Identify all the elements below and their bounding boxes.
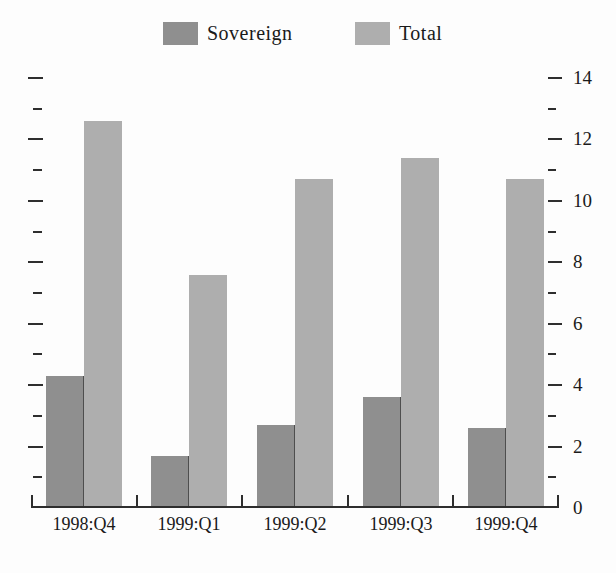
x-group-tick — [241, 495, 243, 506]
y-major-tick-left — [28, 77, 43, 79]
y-major-tick-left — [28, 323, 43, 325]
y-major-tick-right — [548, 200, 562, 202]
y-tick-label: 10 — [573, 190, 616, 212]
y-tick-label: 2 — [573, 436, 616, 458]
y-minor-tick-right — [548, 231, 556, 233]
y-tick-label: 14 — [573, 67, 616, 89]
y-minor-tick-left — [33, 231, 42, 233]
total-legend-label: Total — [399, 21, 442, 46]
bar-sovereign-1999-q3 — [363, 397, 401, 508]
y-minor-tick-left — [33, 353, 42, 355]
y-major-tick-left — [28, 138, 43, 140]
bar-sovereign-1998-q4 — [46, 376, 84, 508]
total-legend-swatch — [355, 22, 390, 45]
bar-total-1999-q1 — [189, 275, 227, 508]
bar-total-1999-q4 — [506, 179, 544, 508]
x-axis-right-cap — [557, 495, 559, 508]
y-minor-tick-left — [33, 415, 42, 417]
x-axis-label: 1998:Q4 — [29, 512, 139, 536]
x-axis-label: 1999:Q1 — [134, 512, 244, 536]
y-major-tick-right — [548, 138, 562, 140]
bar-sovereign-1999-q4 — [468, 428, 506, 508]
y-major-tick-left — [28, 384, 43, 386]
bar-total-1998-q4 — [84, 121, 122, 508]
y-minor-tick-left — [33, 292, 42, 294]
y-major-tick-left — [28, 200, 43, 202]
bar-total-1999-q3 — [401, 158, 439, 508]
plot-area: 02468101214 — [31, 68, 559, 508]
y-minor-tick-left — [33, 108, 42, 110]
x-group-tick — [452, 495, 454, 506]
bar-chart-figure: Sovereign Total 02468101214 1998:Q41999:… — [0, 0, 616, 573]
y-major-tick-left — [28, 446, 43, 448]
y-minor-tick-right — [548, 292, 556, 294]
y-major-tick-left — [28, 261, 43, 263]
y-tick-label: 6 — [573, 313, 616, 335]
y-tick-label: 12 — [573, 128, 616, 150]
y-tick-label: 4 — [573, 374, 616, 396]
sovereign-legend-swatch — [163, 22, 198, 45]
y-major-tick-right — [548, 77, 562, 79]
y-minor-tick-left — [33, 476, 42, 478]
x-group-tick — [347, 495, 349, 506]
y-major-tick-right — [548, 446, 562, 448]
x-axis-label: 1999:Q3 — [346, 512, 456, 536]
y-minor-tick-right — [548, 353, 556, 355]
x-axis-label: 1999:Q4 — [451, 512, 561, 536]
y-minor-tick-right — [548, 476, 556, 478]
y-minor-tick-right — [548, 108, 556, 110]
y-major-tick-right — [548, 323, 562, 325]
x-axis-label: 1999:Q2 — [240, 512, 350, 536]
y-tick-label: 8 — [573, 251, 616, 273]
bar-total-1999-q2 — [295, 179, 333, 508]
y-major-tick-right — [548, 384, 562, 386]
bar-sovereign-1999-q1 — [151, 456, 189, 508]
y-tick-label: 0 — [573, 497, 616, 519]
sovereign-legend-label: Sovereign — [207, 21, 293, 46]
bar-sovereign-1999-q2 — [257, 425, 295, 508]
y-minor-tick-right — [548, 169, 556, 171]
x-axis-left-cap — [31, 495, 33, 508]
y-major-tick-right — [548, 261, 562, 263]
y-minor-tick-left — [33, 169, 42, 171]
y-minor-tick-right — [548, 415, 556, 417]
x-group-tick — [136, 495, 138, 506]
x-axis-line — [31, 506, 559, 508]
